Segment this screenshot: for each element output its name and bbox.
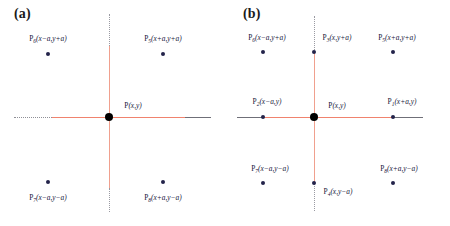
panel-a-center-point — [105, 113, 113, 121]
panel-a-axis-top-dotted — [109, 14, 110, 46]
panel-b-axis-bottom-dotted — [314, 183, 315, 211]
panel-a-axis-horizontal — [52, 117, 185, 118]
panel-b-point-p3 — [312, 50, 316, 54]
panel-b-label-p8: P8(x+a,y−a) — [380, 164, 418, 173]
panel-a-axis-left-dotted — [14, 117, 52, 118]
panel-a-center-label: P(x,y) — [124, 101, 141, 110]
panel-a-point-p7 — [46, 180, 50, 184]
panel-a-point-p6 — [46, 52, 50, 56]
panel-b-label-p6: P6(x−a,y+a) — [248, 33, 286, 42]
panel-b-point-p6 — [261, 50, 265, 54]
panel-b-label-p5: P5(x+a,y+a) — [378, 33, 416, 42]
panel-a-label-p8: P8(x+a,y−a) — [144, 193, 182, 202]
panel-a-label-p5: P5(x+a,y+a) — [144, 34, 182, 43]
panel-a: (a) P(x,y) P6(x−a,y+a)P5(x+a,y+a)P7(x−a,… — [0, 0, 225, 226]
panel-b-point-p7 — [261, 181, 265, 185]
panel-b-label-p1: P1(x+a,y) — [388, 97, 417, 106]
panel-b-axis-left-gray — [237, 117, 263, 118]
figure-neighborhood-diagram: (a) P(x,y) P6(x−a,y+a)P5(x+a,y+a)P7(x−a,… — [0, 0, 450, 226]
panel-a-label-p6: P6(x−a,y+a) — [29, 34, 67, 43]
panel-b-center-label: P(x,y) — [328, 101, 345, 110]
panel-b-point-p4 — [312, 181, 316, 185]
panel-b-label-p2: P2(x−a,y) — [253, 97, 282, 106]
panel-b-label-p3: P3(x,y+a) — [323, 33, 352, 42]
panel-a-axis-right-gray — [185, 117, 211, 118]
panel-b: (b) P(x,y) P6(x−a,y+a)P3(x,y+a)P5(x+a,y+… — [225, 0, 450, 226]
panel-b-center-point — [310, 113, 318, 121]
panel-b-point-p2 — [261, 115, 265, 119]
panel-a-letter: (a) — [14, 6, 31, 22]
panel-b-axis-top-dotted — [314, 16, 315, 52]
panel-a-axis-bottom-dotted — [109, 188, 110, 212]
panel-b-point-p1 — [391, 115, 395, 119]
panel-b-axis-right-gray — [393, 117, 423, 118]
panel-b-axis-horizontal — [263, 117, 393, 118]
panel-b-point-p8 — [391, 181, 395, 185]
panel-b-letter: (b) — [243, 6, 261, 22]
panel-b-point-p5 — [391, 50, 395, 54]
panel-a-point-p8 — [161, 180, 165, 184]
panel-a-label-p7: P7(x−a,y−a) — [29, 193, 67, 202]
panel-b-label-p7: P7(x−a,y−a) — [251, 164, 289, 173]
panel-a-point-p5 — [161, 52, 165, 56]
panel-b-label-p4: P4(x,y−a) — [324, 187, 353, 196]
